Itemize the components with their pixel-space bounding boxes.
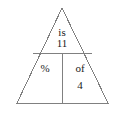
percent-label: % <box>33 63 57 74</box>
triangle-graphic <box>0 0 123 114</box>
of-value: 4 <box>68 80 92 91</box>
is-value: 11 <box>49 38 75 49</box>
of-label: of <box>68 63 92 74</box>
percent-triangle-diagram: is 11 % of 4 <box>0 0 123 114</box>
